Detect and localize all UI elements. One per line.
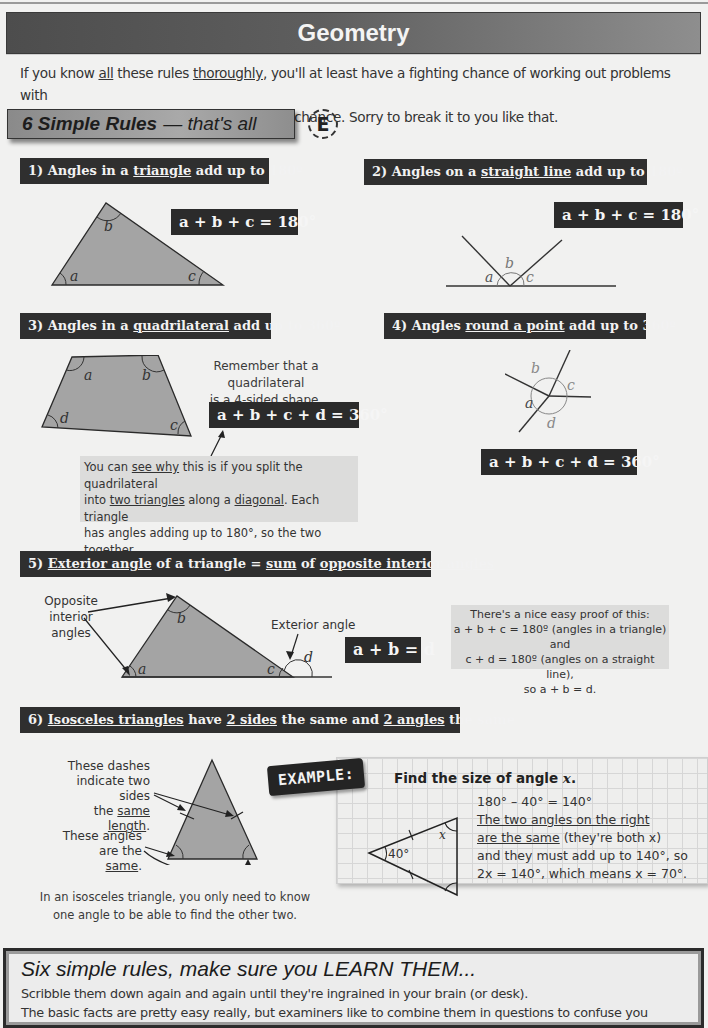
proof-line: so a + b = d. <box>451 682 669 697</box>
rule-text: add up to 360º <box>565 318 677 333</box>
intro-emphasis-thoroughly: thoroughly <box>193 65 263 81</box>
intro-text: these rules <box>113 65 193 81</box>
example-badge-text: EXAMPLE: <box>277 765 355 790</box>
example-solution: 180° – 40° = 140° The two angles on the … <box>477 793 705 883</box>
angle-label-b: b <box>104 218 113 234</box>
dashes-label: These dashes indicate two sides the same… <box>52 759 150 834</box>
angle-label-a: a <box>138 661 146 677</box>
formula-text: a + b + c = 180° <box>179 213 316 231</box>
rule-keyword: round a point <box>465 318 564 333</box>
angle-label-a: a <box>84 367 92 383</box>
example-question: Find the size of angle x. <box>394 770 576 786</box>
rule-text: of <box>296 556 319 571</box>
example-box: Find the size of angle x. 40° x 180° – 4… <box>336 757 708 884</box>
angle-label-b: b <box>142 367 151 383</box>
angle-label-d: d <box>60 410 69 426</box>
solution-keyword: are the same <box>477 830 560 845</box>
rule-3-title: 3) Angles in a quadrilateral add up to 3… <box>20 313 271 339</box>
exam-level-badge-icon: E <box>308 109 338 139</box>
label-line: indicate two sides <box>52 774 150 804</box>
label-text: the <box>94 804 118 818</box>
formula-text: a + b = d <box>353 640 435 659</box>
solution-line: 180° – 40° = 140° <box>477 793 705 811</box>
badge-letter: E <box>317 113 330 135</box>
question-text: . <box>571 770 576 786</box>
rule-keyword: Isosceles triangles <box>48 712 184 727</box>
expl-keyword: two triangles <box>110 493 185 507</box>
angle-label-d: d <box>304 649 313 665</box>
angle-label-d: d <box>547 415 556 431</box>
unknown-angle-label: x <box>439 828 446 842</box>
given-angle-label: 40° <box>388 847 409 861</box>
label-keyword: same <box>105 859 138 873</box>
formula-text: a + b + c + d = 360° <box>217 406 388 424</box>
rule-text: the same and <box>277 712 384 727</box>
label-line: These dashes <box>52 759 150 774</box>
page-title-text: Geometry <box>297 19 409 47</box>
top-rule <box>0 2 708 4</box>
angles-round-point-diagram: a b c d <box>505 350 635 435</box>
rule-text: have <box>184 712 227 727</box>
rule-keyword: quadrilateral <box>133 318 229 333</box>
proof-line: c + d = 180º (angles on a straight line)… <box>451 652 669 682</box>
solution-line: and they must add up to 140°, so <box>477 847 705 865</box>
summary-box: Six simple rules, make sure you LEARN TH… <box>3 948 704 1028</box>
question-text: Find the size of angle <box>394 770 563 786</box>
expl-keyword: diagonal <box>235 493 284 507</box>
page-title: Geometry <box>6 12 701 54</box>
label-line: These angles <box>62 829 142 844</box>
example-triangle-diagram: 40° x <box>367 813 467 898</box>
proof-line: There's a nice easy proof of this: <box>451 607 669 622</box>
rule-text: 5) <box>28 556 48 571</box>
rule-4-title: 4) Angles round a point add up to 360º <box>384 313 646 339</box>
note-line: one angle to be able to find the other t… <box>35 906 315 924</box>
angle-label-a: a <box>70 268 78 284</box>
rule-5-title: 5) Exterior angle of a triangle = sum of… <box>20 551 431 577</box>
rule-text: 1) Angles in a <box>28 163 133 178</box>
summary-line: The basic facts are pretty easy really, … <box>21 1003 701 1022</box>
angle-label-c: c <box>567 377 575 393</box>
isosceles-diagram <box>140 755 270 865</box>
quadrilateral-explanation: You can see why this is if you split the… <box>80 456 358 522</box>
summary-line: Scribble them down again and again until… <box>21 984 701 1003</box>
rule-5-formula: a + b = d <box>345 637 421 663</box>
expl-keyword: see why <box>132 460 179 474</box>
solution-line: The two angles on the right <box>477 811 705 829</box>
rule-1-formula: a + b + c = 180° <box>171 209 298 235</box>
rule-text: 3) Angles in a <box>28 318 133 333</box>
solution-line: 2x = 140°, which means x = 70°. <box>477 865 705 883</box>
angle-label-c: c <box>170 417 178 433</box>
rule-text: 6) <box>28 712 48 727</box>
formula-text: a + b + c + d = 360° <box>489 453 660 471</box>
summary-title: Six simple rules, make sure you LEARN TH… <box>21 957 701 981</box>
rule-keyword: sum <box>266 556 297 571</box>
expl-text: You can <box>84 460 132 474</box>
proof-line: a + b + c = 180º (angles in a triangle) … <box>451 622 669 652</box>
angle-label-c: c <box>188 268 196 284</box>
banner-rest: — that's all <box>163 113 256 135</box>
expl-text: into <box>84 493 110 507</box>
exterior-angle-proof: There's a nice easy proof of this: a + b… <box>451 605 669 669</box>
rule-keyword: Exterior angle <box>48 556 152 571</box>
rule-keyword: 2 angles <box>384 712 445 727</box>
rule-text: 2) Angles on a <box>372 164 481 179</box>
isosceles-note: In an isosceles triangle, you only need … <box>35 888 315 924</box>
rule-keyword: 2 sides <box>226 712 277 727</box>
angle-label-c: c <box>267 661 275 677</box>
quadrilateral-diagram: a b c d <box>38 355 198 440</box>
angle-label-b: b <box>531 360 540 376</box>
angle-label-b: b <box>177 610 186 626</box>
label-text: are the <box>99 844 142 858</box>
angle-label-c: c <box>526 269 534 285</box>
rule-text: the same <box>445 712 516 727</box>
rule-keyword: opposite interior angles <box>320 556 495 571</box>
exterior-angle-diagram: a b c d <box>80 590 340 682</box>
angle-label-b: b <box>505 255 514 271</box>
intro-text: If you know <box>20 65 98 81</box>
arrow-icon <box>208 428 228 458</box>
rule-6-title: 6) Isosceles triangles have 2 sides the … <box>20 707 460 733</box>
rule-keyword: triangle <box>133 163 191 178</box>
rule-text: add up to 180º <box>191 163 303 178</box>
banner-bold: 6 Simple Rules <box>22 113 157 135</box>
solution-text: (they're both x) <box>560 830 661 845</box>
